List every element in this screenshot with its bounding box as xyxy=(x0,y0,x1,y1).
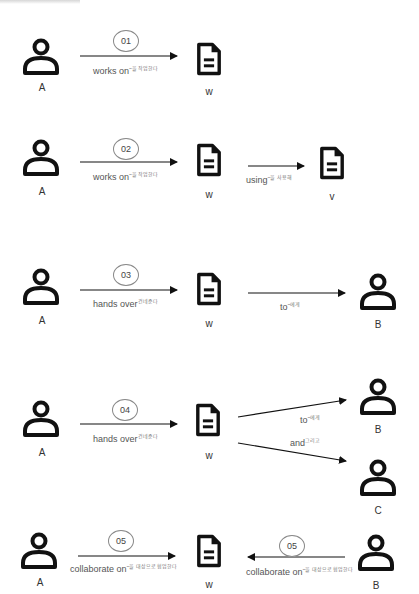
node-label: v xyxy=(326,191,338,202)
document-icon xyxy=(322,149,342,178)
node-label: A xyxy=(36,186,48,197)
relation-label: collaborate on~을 대상으로 협업한다 xyxy=(246,565,353,577)
node-label: C xyxy=(372,505,384,516)
step-badge: 05 xyxy=(108,530,134,552)
relation-label: collaborate on~을 대상으로 협업한다 xyxy=(70,562,177,574)
person-icon xyxy=(25,41,57,74)
document-icon xyxy=(199,537,219,566)
person-icon xyxy=(362,381,394,414)
person-icon xyxy=(23,535,55,568)
step-badge: 05 xyxy=(279,535,305,557)
step-badge: 04 xyxy=(112,399,138,421)
person-icon xyxy=(362,276,394,309)
document-icon xyxy=(199,146,219,175)
relation-label: using~을 사용해 xyxy=(246,173,292,185)
person-icon xyxy=(360,537,392,570)
node-label: B xyxy=(372,319,384,330)
step-badge: 02 xyxy=(113,138,139,160)
person-icon xyxy=(25,142,57,175)
node-label: w xyxy=(203,450,215,461)
node-label: w xyxy=(203,86,215,97)
relation-label: works on~을 작업한다 xyxy=(93,170,158,182)
node-label: A xyxy=(34,577,46,588)
person-icon xyxy=(25,271,57,304)
step-badge: 03 xyxy=(113,264,139,286)
node-label: A xyxy=(36,315,48,326)
relation-label: hands over건네준다 xyxy=(93,432,158,444)
document-icon xyxy=(199,275,219,304)
relation-label: to~에게 xyxy=(280,300,300,312)
document-icon xyxy=(199,45,219,74)
relation-label: to~에게 xyxy=(300,413,320,425)
step-badge: 01 xyxy=(113,30,139,52)
node-label: B xyxy=(370,580,382,591)
node-label: A xyxy=(36,447,48,458)
relation-label: hands over건네준다 xyxy=(93,297,158,309)
document-icon xyxy=(198,406,218,435)
node-label: w xyxy=(203,189,215,200)
node-label: B xyxy=(372,424,384,435)
person-icon xyxy=(25,403,57,436)
node-label: w xyxy=(203,579,215,590)
relation-label: and그리고 xyxy=(290,436,320,448)
person-icon xyxy=(362,462,394,495)
relation-label: works on~을 작업한다 xyxy=(93,64,158,76)
node-label: A xyxy=(36,82,48,93)
node-label: w xyxy=(203,318,215,329)
